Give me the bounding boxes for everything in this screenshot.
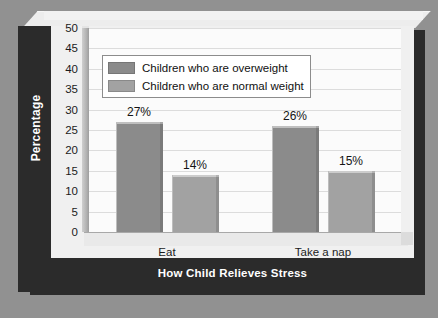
y-axis-tick-label: 15: [52, 165, 78, 177]
y-axis-tick-label: 40: [52, 63, 78, 75]
y-axis-tick-label: 10: [52, 185, 78, 197]
plot-floor: [84, 232, 408, 246]
bar: 14%: [172, 175, 218, 232]
bar-face: [172, 175, 219, 232]
y-axis-tick-label: 45: [52, 42, 78, 54]
bar-value-label: 27%: [127, 105, 151, 119]
bar-face: [328, 171, 375, 232]
bar: 27%: [116, 122, 162, 232]
y-axis-tick-labels: 50454035302520151050: [51, 26, 81, 258]
bar-right-bevel: [216, 175, 219, 232]
legend-item: Children who are normal weight: [108, 77, 305, 95]
y-axis-tick-label: 5: [52, 206, 78, 218]
bar-value-label: 15%: [339, 154, 363, 168]
chart-3d-top-cap: [44, 11, 423, 20]
legend-label-overweight: Children who are overweight: [142, 62, 288, 74]
y-axis-title: Percentage: [29, 38, 43, 218]
bar-face: [272, 126, 319, 232]
y-axis-tick-label: 20: [52, 144, 78, 156]
bar-top-bevel: [117, 122, 163, 124]
y-axis-band: Percentage: [18, 26, 51, 292]
x-axis-category-label: Eat: [158, 246, 175, 258]
gridline: [89, 48, 401, 49]
x-axis-band: How Child Relieves Stress: [51, 258, 414, 292]
chart-card: Percentage How Child Relieves Stress 504…: [18, 26, 414, 292]
y-axis-rail: [82, 28, 89, 232]
x-axis-category-label: Take a nap: [295, 246, 351, 258]
plot-floor-edge: [401, 232, 413, 245]
bar-top-bevel: [273, 126, 319, 128]
x-axis-title: How Child Relieves Stress: [51, 267, 414, 279]
bar-value-label: 14%: [183, 158, 207, 172]
bar-top-bevel: [173, 175, 219, 177]
y-axis-tick-label: 50: [52, 22, 78, 34]
y-axis-tick-label: 30: [52, 104, 78, 116]
y-axis-tick-label: 25: [52, 124, 78, 136]
legend-swatch-normal: [108, 80, 135, 92]
bar-right-bevel: [372, 171, 375, 232]
y-axis-tick-label: 35: [52, 83, 78, 95]
bar: 15%: [328, 171, 374, 232]
bar-right-bevel: [160, 122, 163, 232]
y-axis-tick-label: 0: [52, 226, 78, 238]
bar-face: [116, 122, 163, 232]
bar: 26%: [272, 126, 318, 232]
bar-top-bevel: [329, 171, 375, 173]
legend-swatch-overweight: [108, 62, 135, 74]
gridline: [89, 28, 401, 29]
legend-label-normal: Children who are normal weight: [142, 80, 304, 92]
bar-value-label: 26%: [283, 109, 307, 123]
chart-figure: Percentage How Child Relieves Stress 504…: [0, 0, 438, 318]
bar-right-bevel: [316, 126, 319, 232]
legend-item: Children who are overweight: [108, 59, 305, 77]
chart-legend: Children who are overweight Children who…: [102, 55, 311, 98]
